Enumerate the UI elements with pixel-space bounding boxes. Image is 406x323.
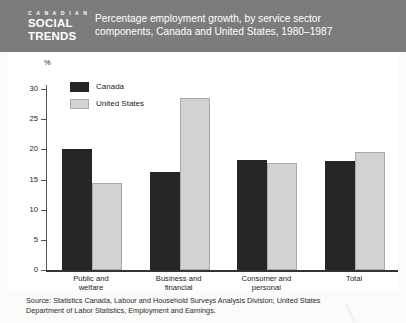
source-note-line-2: Department of Labor Statistics, Employme… bbox=[26, 306, 392, 316]
bar-group bbox=[237, 52, 297, 270]
chart-legend: Canada United States bbox=[70, 80, 144, 114]
y-tick-label-30: 30 bbox=[8, 84, 38, 93]
brand-social-text: SOCIAL bbox=[28, 17, 95, 30]
x-category-label-line: personal bbox=[217, 283, 317, 292]
y-tick-label-20: 20 bbox=[8, 144, 38, 153]
brand-trends-text: TRENDS bbox=[28, 30, 95, 43]
x-category-label: Consumer andpersonal bbox=[217, 274, 317, 292]
x-category-label-line: Public and bbox=[41, 274, 141, 283]
legend-item-canada: Canada bbox=[70, 80, 144, 93]
legend-label-canada: Canada bbox=[96, 82, 124, 91]
x-category-label: Business andfinancial bbox=[129, 274, 229, 292]
chart-header-band: C A N A D I A N SOCIAL TRENDS Percentage… bbox=[0, 0, 406, 52]
legend-swatch-canada bbox=[70, 82, 89, 92]
bar-united-states bbox=[267, 163, 297, 270]
bar-canada bbox=[150, 172, 180, 270]
x-category-label: Public andwelfare bbox=[41, 274, 141, 292]
bar-canada bbox=[62, 149, 92, 270]
bar-group bbox=[150, 52, 210, 270]
y-tick-label-25: 25 bbox=[8, 114, 38, 123]
chart-title-line-2: components, Canada and United States, 19… bbox=[95, 26, 398, 39]
chart-figure: C A N A D I A N SOCIAL TRENDS Percentage… bbox=[0, 0, 406, 323]
y-tick-label-15: 15 bbox=[8, 175, 38, 184]
bar-group bbox=[325, 52, 385, 270]
y-tick-label-0: 0 bbox=[8, 265, 38, 274]
plot-panel: % 051015202530 Public andwelfareBusiness… bbox=[8, 52, 398, 291]
y-tick-0 bbox=[41, 270, 47, 271]
y-tick-label-5: 5 bbox=[8, 235, 38, 244]
legend-label-united-states: United States bbox=[96, 99, 144, 108]
bar-canada bbox=[325, 161, 355, 270]
x-category-label-line: Consumer and bbox=[217, 274, 317, 283]
x-category-label-line: Total bbox=[304, 274, 404, 283]
bar-united-states bbox=[180, 98, 210, 270]
bar-united-states bbox=[92, 183, 122, 270]
x-category-label-line: Business and bbox=[129, 274, 229, 283]
source-note: Source: Statistics Canada, Labour and Ho… bbox=[26, 296, 392, 315]
legend-swatch-united-states bbox=[70, 99, 89, 109]
brand-canadian-text: C A N A D I A N bbox=[28, 10, 95, 17]
x-axis-line bbox=[46, 270, 398, 272]
x-category-label-line: welfare bbox=[41, 283, 141, 292]
bar-canada bbox=[237, 160, 267, 270]
chart-title: Percentage employment growth, by service… bbox=[95, 13, 406, 38]
legend-item-united-states: United States bbox=[70, 97, 144, 110]
publication-logo: C A N A D I A N SOCIAL TRENDS bbox=[0, 10, 95, 42]
x-category-label-line: financial bbox=[129, 283, 229, 292]
x-category-label: Total bbox=[304, 274, 404, 283]
bar-united-states bbox=[355, 152, 385, 270]
chart-title-line-1: Percentage employment growth, by service… bbox=[95, 13, 398, 26]
y-tick-label-10: 10 bbox=[8, 205, 38, 214]
source-note-line-1: Source: Statistics Canada, Labour and Ho… bbox=[26, 296, 392, 306]
